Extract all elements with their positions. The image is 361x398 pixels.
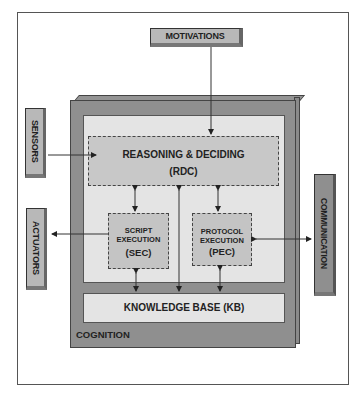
connection-arrows	[0, 0, 361, 398]
